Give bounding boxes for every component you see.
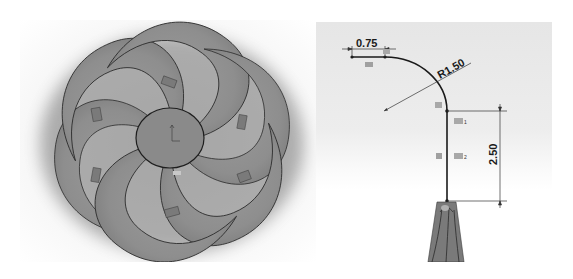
dimension-label-vertical[interactable]: 2.50 (487, 144, 499, 165)
radius-arrow (384, 108, 388, 111)
impeller-graphic (20, 20, 316, 262)
relation-icon-2[interactable] (454, 153, 463, 159)
hub (136, 108, 204, 168)
blade-segment (428, 202, 464, 262)
dimension-label-horizontal[interactable]: 0.75 (356, 37, 377, 49)
coincident-marker (441, 205, 449, 211)
sketch-graphic: 0.75 R1.50 1 2 2.50 (316, 22, 552, 262)
relation-subscript-1: 1 (464, 119, 467, 125)
sketch-view: 0.75 R1.50 1 2 2.50 (316, 22, 552, 262)
relation-icon-coincident[interactable] (383, 49, 390, 54)
relation-icon-vertical[interactable] (436, 153, 442, 159)
relation-subscript-2: 2 (464, 154, 467, 160)
impeller-view (20, 20, 316, 262)
relation-icon-1[interactable] (454, 118, 463, 124)
dimension-label-radius[interactable]: R1.50 (435, 56, 466, 81)
relation-icon-tangent[interactable] (435, 102, 442, 108)
relation-marker (173, 171, 181, 175)
relation-icon-horizontal[interactable] (365, 62, 373, 67)
